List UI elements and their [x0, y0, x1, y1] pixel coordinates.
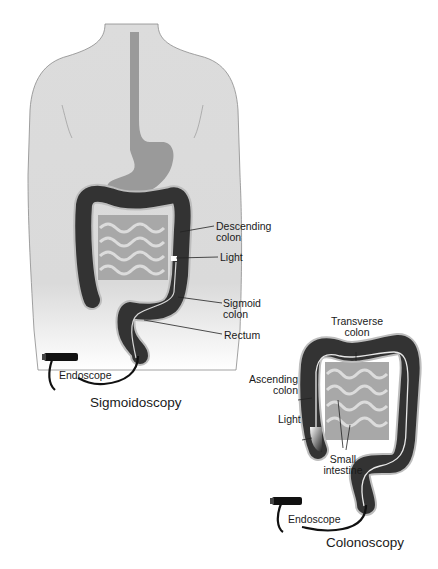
label-rectum: Rectum [224, 330, 260, 341]
diagram-canvas [0, 0, 438, 569]
label-endoscope-sigmoid: Endoscope [59, 370, 112, 381]
caption-colonoscopy: Colonoscopy [326, 535, 404, 550]
light-spot [171, 256, 177, 261]
caption-sigmoidoscopy: Sigmoidoscopy [90, 395, 182, 410]
label-line: colon [246, 385, 298, 396]
label-small-intestine: Small intestine [318, 454, 368, 476]
small-intestine-colonoscopy [325, 362, 389, 440]
label-light-sigmoid: Light [220, 252, 243, 263]
label-transverse-colon: Transverse colon [328, 316, 386, 338]
label-line: colon [328, 327, 386, 338]
label-light-colon: Light [278, 414, 301, 425]
label-descending-colon: Descending colon [216, 221, 271, 243]
label-line: colon [223, 309, 261, 320]
label-ascending-colon: Ascending colon [246, 374, 298, 396]
label-endoscope-colon: Endoscope [288, 514, 341, 525]
small-intestine [98, 215, 168, 280]
label-sigmoid-colon: Sigmoid colon [223, 298, 261, 320]
label-line: intestine [318, 465, 368, 476]
label-line: colon [216, 232, 271, 243]
